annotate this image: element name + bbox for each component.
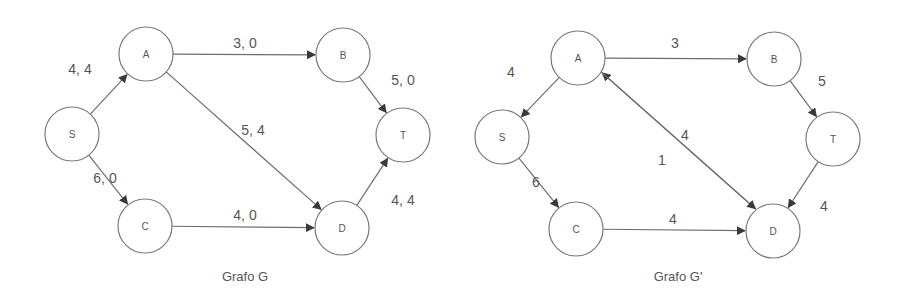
node-d: D (315, 201, 369, 255)
node-label: S (69, 129, 76, 140)
node-label: A (143, 49, 150, 60)
node-c: C (549, 202, 603, 256)
edge-s-to-a (90, 75, 127, 115)
edge-a-to-b (173, 54, 315, 55)
node-label: B (340, 50, 347, 61)
node-d: D (746, 204, 800, 258)
edge-label: 4, 0 (233, 207, 257, 223)
edge-label: 6 (532, 174, 540, 190)
node-s: S (475, 110, 529, 164)
node-t: T (806, 112, 860, 166)
graph-g: 4, 43, 05, 05, 46, 04, 04, 4SABTCDGrafo … (45, 27, 430, 284)
node-label: C (572, 224, 579, 235)
node-label: S (499, 132, 506, 143)
node-b: B (316, 28, 370, 82)
edge-label: 6, 0 (93, 170, 117, 186)
node-label: D (338, 223, 345, 234)
node-label: T (400, 130, 406, 141)
edge-a-to-d (166, 72, 321, 209)
edge-label: 5, 0 (391, 72, 415, 88)
edge-label: 4 (669, 211, 677, 227)
edge-b-to-t (790, 81, 816, 117)
node-label: B (771, 54, 778, 65)
edge-b-to-t (359, 77, 386, 113)
node-label: C (141, 221, 148, 232)
node-label: A (575, 53, 582, 64)
edge-label: 4, 4 (68, 61, 92, 77)
edge-label: 4 (820, 198, 828, 214)
graph-caption: Grafo G' (654, 269, 703, 284)
edge-d-to-t (357, 158, 388, 205)
edge-c-to-d (603, 229, 745, 230)
node-a: A (551, 31, 605, 85)
edge-a-to-d (602, 72, 756, 208)
node-c: C (118, 199, 172, 253)
node-b: B (747, 32, 801, 86)
edge-label: 4 (507, 64, 515, 80)
node-label: T (830, 134, 836, 145)
edge-label: 4, 4 (391, 192, 415, 208)
edge-a-to-b (605, 58, 746, 59)
graph-caption: Grafo G (222, 269, 268, 284)
node-label: D (769, 226, 776, 237)
edge-label: 4 (681, 127, 689, 143)
edge-label: 3 (671, 35, 679, 51)
edge-label: 5 (818, 73, 826, 89)
edge-label: 5, 4 (241, 122, 265, 138)
edge-t-to-d (788, 162, 818, 208)
node-a: A (119, 27, 173, 81)
edge-c-to-d (172, 226, 314, 227)
edge-a-to-s (521, 77, 559, 116)
node-t: T (376, 108, 430, 162)
edge-label: 1 (658, 152, 666, 168)
flow-network-figure: 4, 43, 05, 05, 46, 04, 04, 4SABTCDGrafo … (0, 0, 906, 302)
node-s: S (45, 107, 99, 161)
edge-label: 3, 0 (233, 35, 257, 51)
graph-g-prime: 34541644ABSTCDGrafo G' (475, 31, 860, 284)
